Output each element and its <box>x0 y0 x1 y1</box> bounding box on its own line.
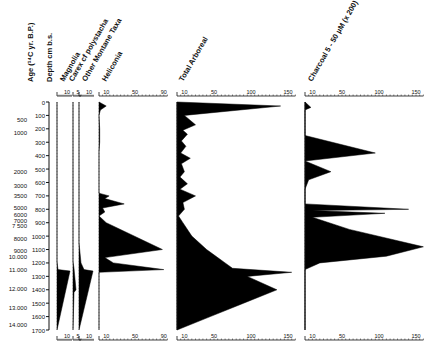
series-layer <box>57 102 423 330</box>
depth-tick-label: 700 <box>35 193 46 199</box>
depth-tick-label: 1300 <box>32 274 46 280</box>
heliconia-curve <box>99 102 164 330</box>
depth-axis-title: Depth cm b.s. <box>45 33 54 82</box>
depth-tick-label: 300 <box>35 140 46 146</box>
arboreal-tick-label: 10 <box>181 333 187 339</box>
arboreal-tick-label: 150 <box>283 89 292 95</box>
charcoal-title: Charcoal 5 - 50 µM (x 200) <box>306 0 360 83</box>
heliconia-tick-label: 10 <box>103 89 109 95</box>
charcoal-tick-label: 10 <box>309 89 315 95</box>
age-tick-label: 5000 <box>14 205 28 211</box>
age-tick-label: 3000 <box>14 183 28 189</box>
arboreal-tick-label: 50 <box>211 333 217 339</box>
depth-tick-label: 1700 <box>32 328 46 334</box>
arboreal-tick-label: 150 <box>283 333 292 339</box>
arboreal-tick-label: 10 <box>181 89 187 95</box>
magnolia-tick-label: 10 <box>64 89 70 95</box>
arboreal-tick-label: 100 <box>246 89 255 95</box>
age-axis-title: Age (¹⁴C yr. B.P.) <box>26 22 35 82</box>
depth-tick-label: 1600 <box>32 314 46 320</box>
depth-tick-label: 800 <box>35 207 46 213</box>
depth-tick-label: 900 <box>35 220 46 226</box>
depth-tick-label: 1100 <box>32 247 46 253</box>
age-tick-label: 3500 <box>14 193 28 199</box>
montane-tick-label: 10 <box>86 89 92 95</box>
depth-tick-label: 1200 <box>32 260 46 266</box>
depth-tick-label: 600 <box>35 180 46 186</box>
arboreal-tick-label: 50 <box>211 89 217 95</box>
age-tick-label: 11.000 <box>9 267 28 273</box>
charcoal-tick-label: 10 <box>309 333 315 339</box>
charcoal-curve <box>305 102 423 330</box>
charcoal-tick-label: 100 <box>374 333 383 339</box>
carex-curve <box>73 102 76 330</box>
age-tick-label: 7 500 <box>12 223 28 229</box>
depth-tick-label: 1000 <box>32 234 46 240</box>
age-tick-label: 500 <box>17 117 28 123</box>
age-tick-label: 1000 <box>14 130 28 136</box>
heliconia-tick-label: 90 <box>161 89 167 95</box>
depth-tick-label: 200 <box>35 126 46 132</box>
depth-tick-label: 100 <box>35 113 46 119</box>
age-tick-label: 12.000 <box>9 286 28 292</box>
charcoal-tick-label: 100 <box>374 89 383 95</box>
age-tick-label: 10.000 <box>9 254 28 260</box>
heliconia-tick-label: 50 <box>132 333 138 339</box>
heliconia-tick-label: 90 <box>161 333 167 339</box>
charcoal-tick-label: 50 <box>339 333 345 339</box>
magnolia-tick-label: 10 <box>64 333 70 339</box>
arboreal-tick-label: 100 <box>246 333 255 339</box>
axis-titles: Age (¹⁴C yr. B.P.) Depth cm b.s. Magnoli… <box>26 0 360 83</box>
depth-tick-label: 500 <box>35 167 46 173</box>
depth-tick-label: 400 <box>35 153 46 159</box>
depth-tick-label: 1500 <box>32 301 46 307</box>
arboreal-curve <box>177 102 292 330</box>
charcoal-tick-label: 50 <box>339 89 345 95</box>
pollen-diagram: Age (¹⁴C yr. B.P.) Depth cm b.s. Magnoli… <box>0 0 446 363</box>
age-tick-label: 14.000 <box>9 322 28 328</box>
age-tick-label: 13.000 <box>9 305 28 311</box>
depth-tick-label: 1400 <box>32 287 46 293</box>
charcoal-tick-label: 150 <box>411 89 420 95</box>
depth-tick-label: 0 <box>42 100 46 106</box>
heliconia-tick-label: 50 <box>132 89 138 95</box>
arboreal-title: Total Arboreal <box>177 35 210 83</box>
magnolia-curve <box>57 102 70 330</box>
heliconia-tick-label: 10 <box>103 333 109 339</box>
montane-tick-label: 10 <box>86 333 92 339</box>
age-tick-label: 8000 <box>14 236 28 242</box>
charcoal-tick-label: 150 <box>411 333 420 339</box>
montane-curve <box>79 102 93 330</box>
age-tick-label: 2000 <box>14 169 28 175</box>
